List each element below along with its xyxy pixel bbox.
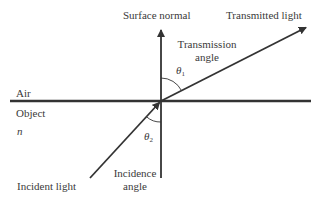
transmitted-light-label: Transmitted light: [226, 9, 302, 22]
object-label: Object: [16, 107, 45, 120]
transmission-angle-line1: Transmission: [172, 38, 242, 51]
incidence-angle-label: Incidence angle: [107, 167, 163, 193]
theta1-subscript: 1: [181, 70, 185, 78]
theta1-label: θ1: [176, 64, 185, 80]
transmission-angle-label: Transmission angle: [172, 38, 242, 64]
theta2-arc: [147, 117, 162, 122]
surface-normal-label: Surface normal: [123, 9, 191, 22]
incidence-angle-line2: angle: [107, 180, 163, 193]
air-label: Air: [16, 87, 31, 100]
incidence-angle-line1: Incidence: [107, 167, 163, 180]
refractive-index-label: n: [17, 125, 23, 138]
transmission-angle-line2: angle: [172, 51, 242, 64]
theta2-subscript: 2: [149, 136, 153, 144]
incident-light-label: Incident light: [17, 180, 76, 193]
theta2-label: θ2: [144, 130, 153, 146]
